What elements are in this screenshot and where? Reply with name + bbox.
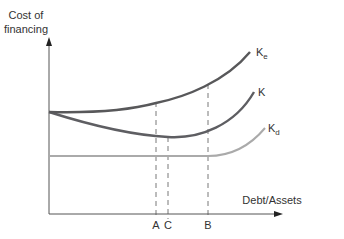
cost-of-financing-diagram: Ke K Kd Cost of financing Debt/Assets A … (0, 0, 344, 239)
kd-curve (49, 128, 265, 156)
k-label: K (258, 86, 266, 98)
ke-label: Ke (256, 46, 268, 61)
x-axis-arrow-icon (274, 211, 283, 217)
y-axis-arrow-icon (46, 37, 52, 46)
y-axis-label-line1: Cost of (9, 9, 45, 21)
x-axis-label: Debt/Assets (242, 194, 302, 206)
ke-curve (49, 52, 250, 112)
marker-a-label: A (152, 219, 160, 231)
marker-c-label: C (164, 219, 172, 231)
k-curve (49, 92, 254, 137)
kd-label: Kd (268, 122, 280, 137)
y-axis-label-line2: financing (4, 23, 48, 35)
marker-b-label: B (204, 219, 211, 231)
